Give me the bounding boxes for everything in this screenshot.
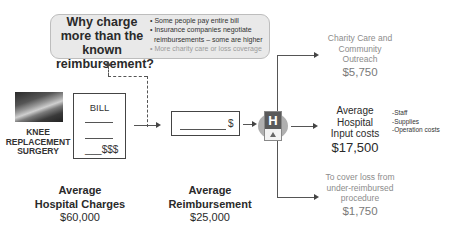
branch-line-middle [291, 126, 313, 127]
bill-title: BILL [73, 102, 126, 113]
arrow-right-icon [156, 122, 161, 128]
dashed-connector-horizontal [108, 76, 147, 77]
arrow-right-icon [314, 52, 319, 58]
loss-amount: $1,750 [315, 204, 405, 218]
arrow-up-icon [105, 61, 111, 66]
reason-item: reimbursements – some are higher [150, 35, 270, 44]
charity-amount: $5,750 [320, 65, 400, 79]
outcome-input-costs: Average Hospital Input costs $17,500 [322, 105, 388, 156]
branch-line-top [277, 55, 314, 56]
reason-item: • Some people pay entire bill [150, 16, 270, 25]
callout-title: Why charge more than the known reimburse… [56, 15, 148, 71]
reason-item: • Insurance companies negotiate [150, 25, 270, 34]
charges-caption: Average Hospital Charges $60,000 [20, 184, 140, 225]
reimbursement-amount: $25,000 [160, 211, 260, 225]
bill-amount: ___$$$ [85, 144, 118, 155]
input-costs-amount: $17,500 [322, 140, 388, 156]
procedure-label: KNEE REPLACEMENT SURGERY [4, 128, 72, 157]
reason-item: • More charity care or loss coverage [150, 44, 270, 53]
input-costs-items: -Staff -Supplies -Operation costs [392, 109, 440, 135]
reimbursement-dollar: $ [228, 118, 234, 129]
dashed-connector-up [108, 66, 109, 76]
outcome-charity: Charity Care and Community Outreach $5,7… [320, 33, 400, 79]
bill-line [85, 122, 113, 123]
hospital-h-letter: H [265, 112, 281, 129]
arrow-right-icon [252, 121, 257, 127]
arrow-line [134, 125, 156, 126]
reimbursement-caption: Average Reimbursement $25,000 [160, 184, 260, 225]
branch-line-up [277, 55, 278, 111]
outcome-loss: To cover loss from under-reimbursed proc… [315, 172, 405, 218]
charges-amount: $60,000 [20, 211, 140, 225]
arrow-right-icon [313, 123, 318, 129]
hospital-arrow-icon [270, 132, 276, 137]
branch-line-down [277, 141, 278, 197]
bill-line [85, 138, 113, 139]
dashed-connector-vertical [147, 76, 148, 127]
reimbursement-line [180, 129, 226, 130]
branch-line-bottom [277, 197, 314, 198]
knee-xray-image [15, 92, 63, 122]
callout-reasons-list: • Some people pay entire bill • Insuranc… [150, 16, 270, 54]
